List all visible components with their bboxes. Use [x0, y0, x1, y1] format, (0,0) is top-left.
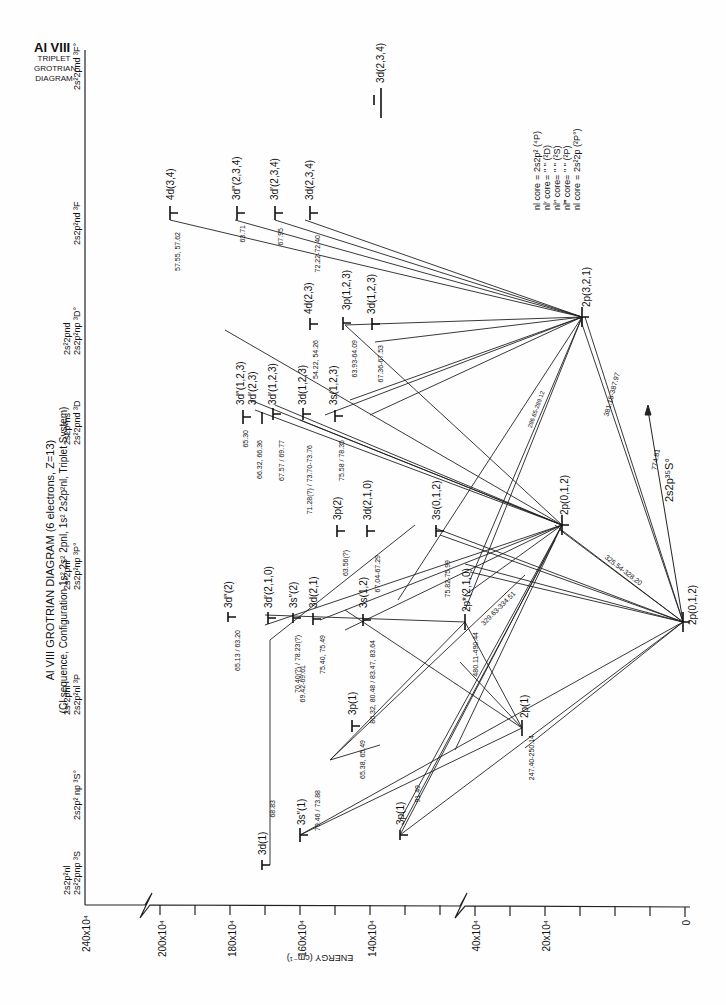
level-label: 3p(1)	[395, 802, 406, 825]
arrow-774	[645, 405, 683, 622]
wavelength-value: 63.93-64.09	[351, 340, 358, 377]
wavelength-value: 75.40, 75.49	[319, 635, 326, 674]
legend-key: nl′ core	[542, 181, 552, 210]
wavelength-value: 63.56(?)	[342, 550, 350, 576]
level-label: 4d(3,4)	[165, 168, 176, 200]
column-header: 2s²2pnl	[62, 685, 72, 715]
wavelength-value: 65.13 / 63.20	[234, 630, 241, 671]
wavelength-value: 67.95	[277, 228, 284, 246]
level-label: 3d′(2,3,4)	[269, 158, 280, 200]
column-header: 2s2p²np ³P°	[72, 542, 82, 590]
wavelength-value: 75.58 / 78.35	[338, 440, 345, 481]
legend-eq: =	[552, 175, 562, 180]
transition-label: 774.81	[650, 448, 661, 470]
tick-label: 20x10⁴	[541, 920, 552, 952]
legend-eq: =	[542, 175, 552, 180]
level-label: 3d(2,3,4)	[304, 160, 315, 200]
level-label: 3d(1)	[257, 832, 268, 855]
level-label: 3d″(1,2,3)	[235, 361, 246, 405]
level-label: 3s(0,1,2)	[431, 481, 442, 520]
energy-axis	[85, 893, 690, 918]
tick-label: 40x10⁴	[471, 920, 482, 952]
column-header: 2s2p²nl ³P	[72, 674, 82, 715]
level-label: 3d(2,1,0)	[362, 480, 373, 520]
axis-tick-labels: 240x10⁴ 200x10⁴ 180x10⁴ 160x10⁴ 140x10⁴ …	[81, 915, 692, 963]
level-label: 2p(1)	[519, 695, 530, 718]
tick-label: 140x10⁴	[367, 920, 378, 957]
column-header: 2s²2pnd ³D	[72, 400, 82, 445]
column-header: 2s2p²ns	[62, 412, 72, 445]
level-label: 2p(3,2,1)	[581, 267, 592, 307]
legend-eq: =	[532, 175, 542, 180]
wavelength-value: 91.49	[414, 785, 421, 803]
level-label: 3p(1)	[347, 692, 358, 715]
level-label: 2p*(2,1,0)	[461, 568, 472, 612]
legend-eq: =	[572, 175, 582, 180]
level-label: 3d(2,1)	[308, 576, 319, 608]
level-label: 3s(1,2,3)	[328, 366, 339, 405]
level-label: 3d(1,2,3)	[297, 365, 308, 405]
legend-key: nl″ core	[552, 180, 562, 210]
wavelength-value: 67.36-67.53	[377, 345, 384, 382]
level-label: 2p(0,1,2)	[687, 585, 698, 625]
wavelength-value: 67.04-67.29	[374, 555, 381, 592]
level-label: 3s″(1)	[296, 799, 307, 825]
wavelength-value: 79.46 / 73.88	[314, 790, 321, 831]
wavelength-value: 75.82-75.99	[444, 560, 451, 597]
tick-label: 200x10⁴	[157, 920, 168, 957]
tick-label: 0	[681, 920, 692, 926]
level-label: 3d″(2)	[223, 581, 234, 608]
diagram-canvas: 240x10⁴ 200x10⁴ 180x10⁴ 160x10⁴ 140x10⁴ …	[0, 0, 726, 1005]
wavelength-value: 247.40-250.14	[528, 735, 535, 780]
wavelength-labels: 247.40-250.14 480.11-490.44 91.49 79.46 …	[174, 225, 661, 831]
axis-title: ENERGY (cm⁻¹)	[287, 953, 353, 963]
column-header: 2s2p²nd ³F	[72, 201, 82, 245]
legend-key: nl core	[532, 183, 542, 210]
wavelength-value: 480.11-490.44	[472, 632, 479, 677]
level-label: 4d(2,3)	[303, 282, 314, 314]
transition-lines	[170, 220, 683, 865]
legend-eq: =	[562, 175, 572, 180]
level-label: 3p(1,2,3)	[341, 270, 352, 310]
wavelength-value: 66.32, 66.36	[256, 440, 263, 479]
legend-value: 2s2p² (⁴P)	[532, 131, 542, 172]
column-header: 2s2p²np ³D°	[72, 306, 82, 355]
level-label: 3d(2,3,4)	[375, 43, 386, 83]
wavelength-value: 71.28(?) / 73.70-73.76	[306, 445, 314, 514]
main-title: Al VIII GROTRIAN DIAGRAM (6 electrons, Z…	[44, 440, 56, 681]
transition-label: 325.54-328.20	[604, 553, 644, 586]
wavelength-value: 57.55, 57.62	[174, 232, 181, 271]
sub-title: (CI sequence, Configuration 1s² 2s² 2pnl…	[58, 407, 69, 714]
legend-value: " " (²D)	[542, 145, 552, 172]
wavelength-value: 67.57 / 69.77	[278, 440, 285, 481]
legend-value: " " (²P)	[562, 146, 572, 172]
legend-key: nl‴ core	[562, 180, 572, 210]
level-label: 3s″(2)	[288, 582, 299, 608]
wavelength-value: 63.71	[239, 225, 246, 243]
wavelength-value: 65.38, 65.49	[359, 740, 366, 779]
column-header: 2s2p² np ³S°	[72, 769, 82, 820]
wavelength-value: 68.83	[269, 800, 276, 818]
level-label: 2s2p³⁵S°	[663, 458, 675, 502]
column-header: 2s2p²nl	[62, 865, 72, 895]
level-label: 3d(1,2,3)	[366, 274, 377, 314]
wavelength-value: 72.22-72.40	[314, 235, 321, 272]
wavelength-value: 65.30	[242, 430, 249, 448]
level-label: 3p(2)	[332, 497, 343, 520]
diagram-title: Al VIII GROTRIAN DIAGRAM (6 electrons, Z…	[44, 407, 69, 714]
level-label: 3d′(2,3)	[247, 371, 258, 405]
tick-label: 180x10⁴	[227, 920, 238, 957]
level-label: 2p(0,1,2)	[559, 475, 570, 515]
wavelength-value: 80.32, 80.48 / 83.47, 83.64	[369, 640, 376, 724]
grotrian-diagram-page: Al VIII TRIPLET GROTRIAN DIAGRAM	[0, 0, 726, 1005]
level-bars	[170, 88, 690, 870]
level-label: 3d″(2,3,4)	[231, 156, 242, 200]
wavelength-value: 54.22, 54.26	[312, 340, 319, 379]
tick-label: 160x10⁴	[297, 920, 308, 957]
legend-key: nl core	[572, 183, 582, 210]
legend-value: " " (²S)	[552, 146, 562, 172]
tick-label: 240x10⁴	[81, 915, 92, 952]
column-header: 2s²2pnp ³S	[72, 851, 82, 895]
column-header: 2s²2pnl	[62, 560, 72, 590]
level-label: 3d′(1,2,3)	[267, 363, 278, 405]
